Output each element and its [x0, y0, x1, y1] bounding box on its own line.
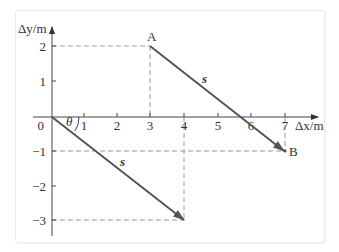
dashed-guides [52, 46, 285, 220]
x-tick-label: 7 [282, 118, 289, 133]
vector-s-a-to-b [150, 46, 284, 151]
y-tick-label: −2 [32, 179, 46, 194]
vector-s-label-lower: s [119, 154, 125, 169]
vector-diagram: 0 1 2 3 4 5 6 7 1 2 −1 −2 −3 Δy/m Δx/m A… [0, 0, 339, 252]
y-tick-label: 1 [40, 74, 47, 89]
x-tick-label: 2 [114, 118, 121, 133]
x-tick-label: 1 [81, 118, 88, 133]
origin-label: 0 [38, 118, 45, 133]
y-axis-label: Δy/m [18, 21, 47, 36]
angle-arc [75, 117, 79, 131]
y-tick-label: −3 [32, 213, 46, 228]
x-tick-label: 5 [215, 118, 222, 133]
vector-s-label-upper: s [201, 71, 207, 86]
y-ticks [52, 46, 56, 220]
x-tick-label: 3 [147, 118, 154, 133]
x-tick-label: 4 [181, 118, 188, 133]
point-a-label: A [147, 29, 157, 44]
axes [33, 27, 318, 236]
point-b-dot [283, 149, 286, 152]
y-tick-label: −1 [32, 144, 46, 159]
y-tick-label: 2 [40, 39, 47, 54]
angle-theta-label: θ [66, 114, 73, 129]
point-b-label: B [289, 144, 298, 159]
x-axis-label: Δx/m [295, 118, 324, 133]
x-ticks [84, 113, 285, 117]
